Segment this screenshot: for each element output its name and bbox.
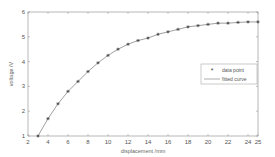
x-tick-label: 8 — [86, 139, 90, 145]
y-tick-label: 1 — [22, 133, 26, 139]
x-tick-label: 2 — [26, 139, 30, 145]
legend-star-icon: * — [211, 67, 214, 74]
y-tick-label: 3 — [22, 83, 26, 89]
y-tick-label: 2 — [22, 108, 26, 114]
x-tick-label: 12 — [125, 139, 132, 145]
y-axis-label: voltage /V — [8, 61, 14, 86]
x-tick-labels: 2468101214161820222425 — [26, 139, 262, 145]
legend-data-point: data point — [222, 67, 245, 73]
x-tick-label: 6 — [66, 139, 70, 145]
y-tick-label: 4 — [22, 59, 26, 65]
line-chart: 2468101214161820222425 123456 displaceme… — [0, 0, 275, 157]
y-tick-label: 5 — [22, 34, 26, 40]
x-tick-label: 10 — [105, 139, 112, 145]
y-tick-label: 6 — [22, 9, 26, 15]
x-tick-label: 24 — [245, 139, 252, 145]
x-tick-label: 25 — [255, 139, 262, 145]
x-tick-label: 22 — [225, 139, 232, 145]
y-tick-labels: 123456 — [22, 9, 26, 139]
x-tick-label: 14 — [145, 139, 152, 145]
legend: * data point fitted curve — [201, 64, 257, 84]
x-axis-label: displacement /mm — [121, 148, 166, 154]
x-tick-label: 20 — [205, 139, 212, 145]
x-tick-label: 18 — [185, 139, 192, 145]
legend-fitted-curve: fitted curve — [222, 76, 247, 82]
x-tick-label: 16 — [165, 139, 172, 145]
x-tick-label: 4 — [46, 139, 50, 145]
